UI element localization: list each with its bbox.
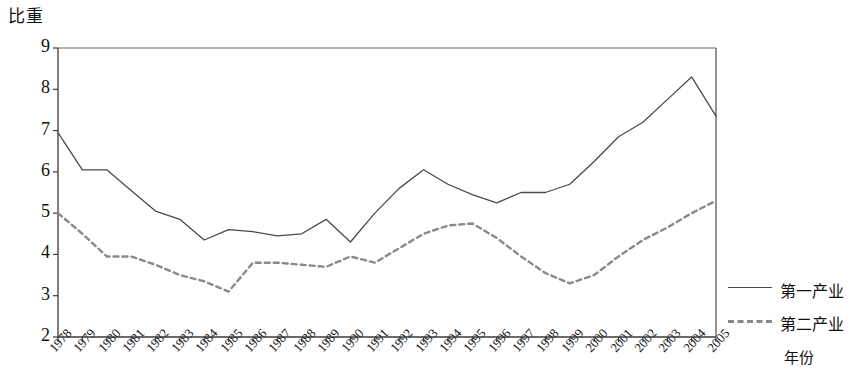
legend-label-2: 第二产业 — [780, 311, 844, 335]
plot-area — [0, 0, 861, 380]
line-chart: 比重 年份 23456789 1978197919801981198219831… — [0, 0, 861, 380]
legend-swatch-2 — [728, 320, 772, 323]
legend-label-1: 第一产业 — [780, 278, 844, 302]
data-series — [58, 77, 716, 292]
axes — [53, 48, 716, 342]
series-line-2 — [58, 201, 716, 292]
series-line-1 — [58, 77, 716, 242]
legend-swatch-1 — [728, 287, 772, 288]
